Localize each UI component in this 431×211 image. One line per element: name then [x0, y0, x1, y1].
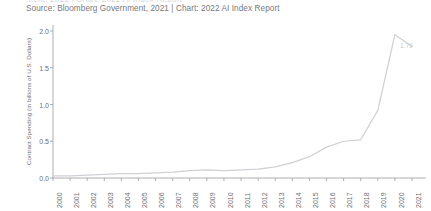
y-axis-tick-label: 1.0 — [29, 101, 49, 108]
x-axis-tick-label: 2000 — [56, 192, 63, 208]
x-axis-tick-labels: 2000200120022003200420052006200720082009… — [0, 182, 431, 211]
x-axis-tick-label: 2010 — [227, 192, 234, 208]
x-axis-tick-label: 2015 — [312, 192, 319, 208]
chart-container: ...ent, 2021 | Chart: 2022 AI Index Repo… — [0, 0, 431, 211]
y-axis-tick-label: 2.0 — [29, 28, 49, 35]
x-axis-tick-label: 2012 — [261, 192, 268, 208]
plot-area: Contract Spending (in billions of U.S. D… — [0, 0, 431, 211]
x-axis-tick-label: 2021 — [415, 192, 422, 208]
x-axis-tick-label: 2016 — [329, 192, 336, 208]
x-axis-tick-label: 2020 — [398, 192, 405, 208]
x-axis-tick-label: 2004 — [124, 192, 131, 208]
y-axis-tick-label: 1.5 — [29, 64, 49, 71]
x-axis-tick-label: 2018 — [363, 192, 370, 208]
y-axis-tick-labels: 0.00.51.01.52.0 — [27, 0, 49, 211]
y-axis-tick-label: 0.5 — [29, 138, 49, 145]
x-axis-tick-label: 2008 — [192, 192, 199, 208]
x-axis-tick-label: 2006 — [158, 192, 165, 208]
x-axis-tick-label: 2011 — [244, 193, 251, 208]
x-axis-tick-label: 2005 — [141, 192, 148, 208]
y-axis-tick-label: 0.0 — [29, 175, 49, 182]
x-axis-tick-label: 2013 — [278, 192, 285, 208]
x-axis-tick-label: 2007 — [175, 192, 182, 208]
x-axis-tick-label: 2003 — [107, 192, 114, 208]
x-axis-tick-label: 2009 — [209, 192, 216, 208]
x-axis-tick-label: 2017 — [346, 192, 353, 208]
line-chart-svg — [0, 0, 431, 211]
x-axis-tick-label: 2014 — [295, 192, 302, 208]
x-axis-tick-label: 2019 — [380, 192, 387, 208]
x-axis-tick-label: 2001 — [73, 192, 80, 208]
x-axis-tick-label: 2002 — [90, 192, 97, 208]
data-point-label: 1.79 — [400, 42, 413, 49]
